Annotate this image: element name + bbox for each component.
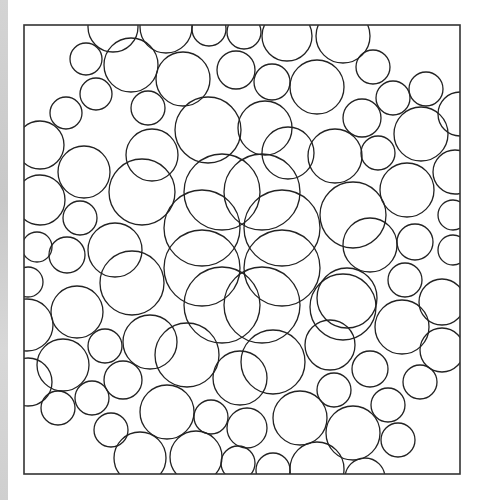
circle-47 xyxy=(343,218,397,272)
circle-68 xyxy=(104,361,142,399)
circle-81 xyxy=(94,413,128,447)
circle-62 xyxy=(241,330,305,394)
circle-86 xyxy=(290,442,344,496)
circle-13 xyxy=(376,81,410,115)
page xyxy=(0,0,483,500)
circle-3 xyxy=(227,15,261,49)
circle-80 xyxy=(381,423,415,457)
circle-83 xyxy=(170,431,222,483)
circle-33 xyxy=(380,163,434,217)
circle-73 xyxy=(75,381,109,415)
circle-9 xyxy=(217,51,255,89)
circle-55 xyxy=(51,286,103,338)
circle-32 xyxy=(63,201,97,235)
circle-84 xyxy=(221,446,255,480)
circle-43 xyxy=(438,200,468,230)
circle-29 xyxy=(433,150,477,194)
circle-25 xyxy=(126,129,178,181)
circle-21 xyxy=(343,99,381,137)
circle-72 xyxy=(41,391,75,425)
circle-7 xyxy=(104,38,158,92)
circle-87 xyxy=(345,458,385,498)
circle-45 xyxy=(49,237,85,273)
circle-76 xyxy=(227,408,267,448)
circle-37 xyxy=(244,190,320,266)
circle-22 xyxy=(394,107,448,161)
circle-19 xyxy=(175,97,241,163)
circle-20 xyxy=(238,101,292,155)
circle-49 xyxy=(438,235,468,265)
circle-61 xyxy=(155,323,219,387)
circle-35 xyxy=(224,154,300,230)
circle-28 xyxy=(361,136,395,170)
circle-50 xyxy=(13,267,43,297)
circle-82 xyxy=(114,432,166,484)
circle-59 xyxy=(88,329,122,363)
circle-2 xyxy=(192,12,226,46)
circle-48 xyxy=(397,224,433,260)
circle-64 xyxy=(305,320,355,370)
circle-26 xyxy=(262,127,314,179)
circle-31 xyxy=(15,175,65,225)
circle-34 xyxy=(184,154,260,230)
circle-18 xyxy=(131,91,165,125)
circle-11 xyxy=(290,60,344,114)
circle-1 xyxy=(140,1,192,53)
circle-54 xyxy=(419,279,465,325)
circle-51 xyxy=(100,251,164,315)
circle-12 xyxy=(356,50,390,84)
circle-52 xyxy=(388,263,422,297)
circle-63 xyxy=(213,351,267,405)
circle-14 xyxy=(409,72,443,106)
circle-46 xyxy=(88,223,142,277)
circle-75 xyxy=(194,400,228,434)
circle-77 xyxy=(273,391,327,445)
circle-79 xyxy=(326,406,380,460)
circle-pattern-figure xyxy=(0,0,483,500)
circle-53 xyxy=(317,268,377,328)
circle-4 xyxy=(262,11,312,61)
circle-65 xyxy=(420,328,464,372)
circle-85 xyxy=(256,453,290,487)
circle-69 xyxy=(352,351,388,387)
circle-70 xyxy=(403,365,437,399)
circle-24 xyxy=(58,146,110,198)
circle-27 xyxy=(308,129,362,183)
circle-74 xyxy=(140,385,194,439)
circle-30 xyxy=(109,159,175,225)
circle-42 xyxy=(320,182,386,248)
circle-36 xyxy=(164,190,240,266)
square-frame xyxy=(24,25,460,474)
circle-57 xyxy=(310,274,376,340)
circle-67 xyxy=(4,358,52,406)
circle-17 xyxy=(50,97,82,129)
circle-16 xyxy=(80,78,112,110)
circle-78 xyxy=(371,388,405,422)
circle-6 xyxy=(70,43,102,75)
circle-44 xyxy=(22,232,52,262)
circles-group xyxy=(1,1,482,498)
circle-10 xyxy=(254,64,290,100)
circle-56 xyxy=(1,299,53,351)
circle-60 xyxy=(123,315,177,369)
